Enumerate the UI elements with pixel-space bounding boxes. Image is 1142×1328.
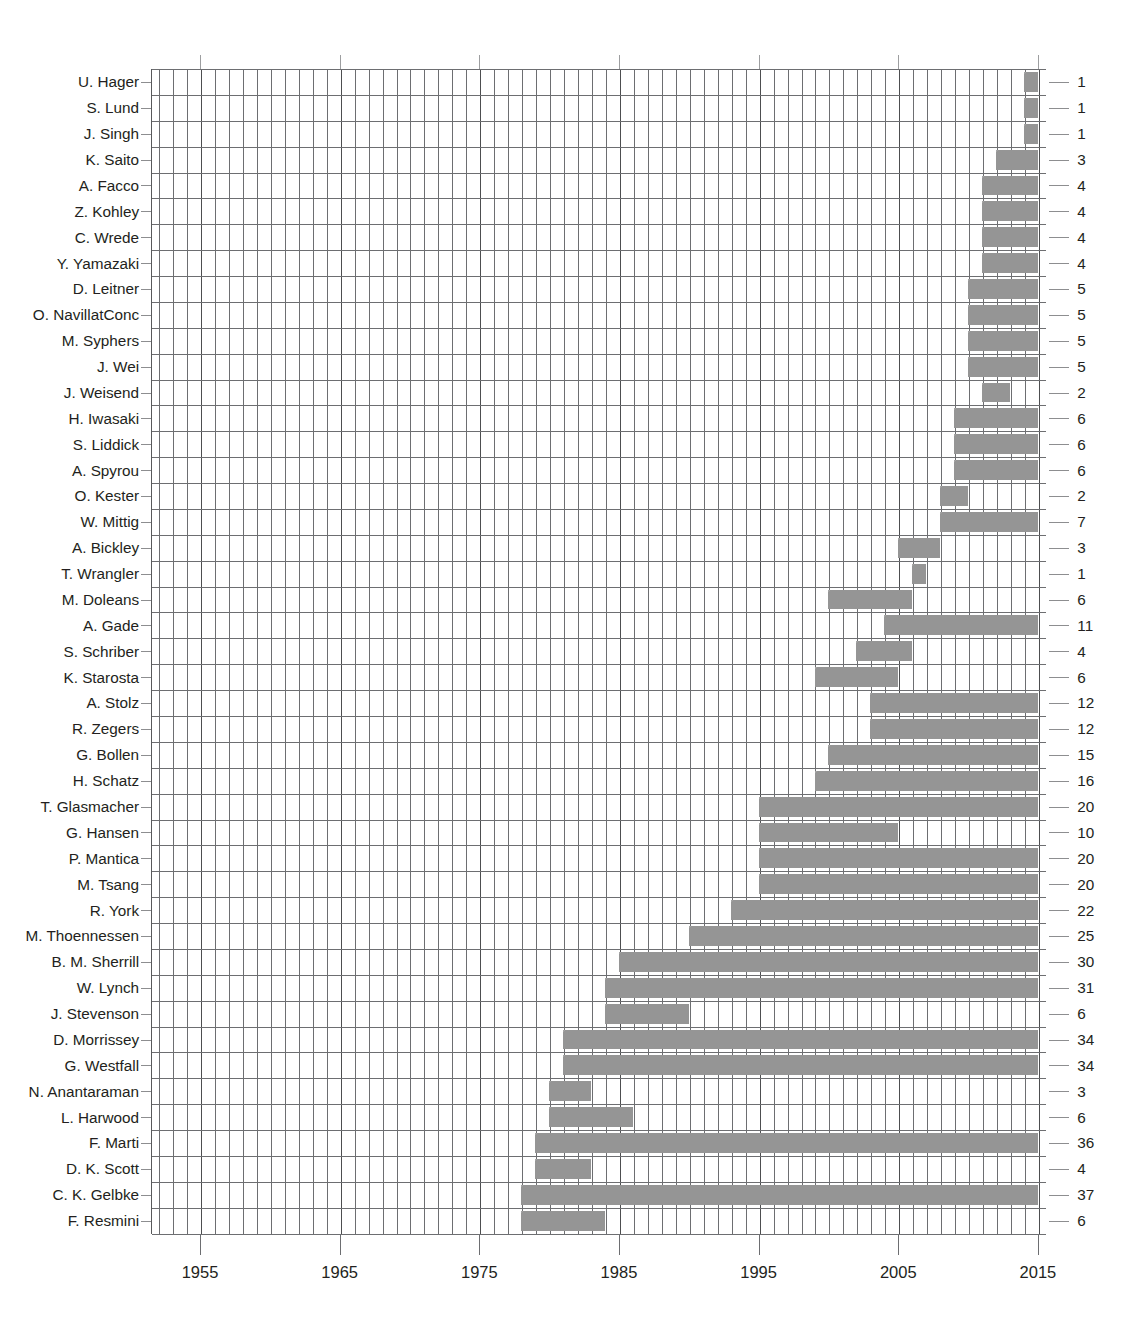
- value-tick: [1049, 884, 1069, 885]
- y-axis-label-a-spyrou: A. Spyrou: [72, 463, 139, 478]
- y-axis-tick: [141, 729, 151, 730]
- bar-t-wrangler[interactable]: [912, 564, 926, 584]
- y-axis-tick: [141, 496, 151, 497]
- gridline-horizontal: [152, 820, 1046, 821]
- value-label-c-wrede: 4: [1077, 230, 1086, 245]
- gridline-vertical-1973: [452, 69, 453, 1234]
- y-axis-tick: [141, 108, 151, 109]
- chart-page: U. Hager1S. Lund1J. Singh1K. Saito3A. Fa…: [0, 0, 1142, 1328]
- bar-r-zegers[interactable]: [870, 719, 1038, 739]
- bar-k-starosta[interactable]: [815, 667, 899, 687]
- bar-m-doleans[interactable]: [828, 590, 912, 610]
- gridline-horizontal: [152, 1156, 1046, 1157]
- bar-g-hansen[interactable]: [759, 823, 899, 843]
- y-axis-label-t-glasmacher: T. Glasmacher: [41, 799, 140, 814]
- bar-w-lynch[interactable]: [605, 978, 1038, 998]
- bar-a-bickley[interactable]: [898, 538, 940, 558]
- gridline-horizontal: [152, 742, 1046, 743]
- bar-f-resmini[interactable]: [521, 1211, 605, 1231]
- bar-g-westfall[interactable]: [563, 1055, 1038, 1075]
- value-tick: [1049, 1117, 1069, 1118]
- bar-r-york[interactable]: [731, 900, 1038, 920]
- bar-d-leitner[interactable]: [968, 279, 1038, 299]
- bar-s-schriber[interactable]: [856, 641, 912, 661]
- y-axis-tick: [141, 1091, 151, 1092]
- bar-k-saito[interactable]: [996, 150, 1038, 170]
- bar-d-morrissey[interactable]: [563, 1030, 1038, 1050]
- x-axis-tick-label-1965: 1965: [300, 1264, 380, 1281]
- y-axis-label-c-wrede: C. Wrede: [75, 230, 139, 245]
- bar-j-stevenson[interactable]: [605, 1004, 689, 1024]
- value-tick: [1049, 858, 1069, 859]
- y-axis-label-h-schatz: H. Schatz: [73, 773, 139, 788]
- value-label-g-westfall: 34: [1077, 1058, 1094, 1073]
- bar-h-schatz[interactable]: [815, 771, 1038, 791]
- y-axis-tick: [141, 82, 151, 83]
- value-label-d-leitner: 5: [1077, 281, 1086, 296]
- value-tick: [1049, 444, 1069, 445]
- gridline-vertical-2015: [1039, 69, 1040, 1234]
- x-axis-tick-1965: [340, 1234, 341, 1255]
- value-label-p-mantica: 20: [1077, 851, 1094, 866]
- y-axis-tick: [141, 289, 151, 290]
- bar-d-k-scott[interactable]: [535, 1159, 591, 1179]
- bar-a-gade[interactable]: [884, 615, 1038, 635]
- gridline-vertical-1957: [229, 69, 230, 1234]
- bar-p-mantica[interactable]: [759, 848, 1038, 868]
- value-label-y-yamazaki: 4: [1077, 256, 1086, 271]
- bar-t-glasmacher[interactable]: [759, 797, 1038, 817]
- value-label-z-kohley: 4: [1077, 204, 1086, 219]
- y-axis-tick: [141, 1065, 151, 1066]
- bar-c-wrede[interactable]: [982, 227, 1038, 247]
- value-label-k-saito: 3: [1077, 152, 1086, 167]
- gridline-horizontal: [152, 535, 1046, 536]
- bar-a-stolz[interactable]: [870, 693, 1038, 713]
- y-axis-label-g-bollen: G. Bollen: [76, 747, 139, 762]
- bar-o-navillatconc[interactable]: [968, 305, 1038, 325]
- bar-z-kohley[interactable]: [982, 201, 1038, 221]
- bar-f-marti[interactable]: [535, 1133, 1038, 1153]
- bar-s-lund[interactable]: [1024, 98, 1038, 118]
- y-axis-label-b-m-sherrill: B. M. Sherrill: [52, 954, 140, 969]
- bar-j-weisend[interactable]: [982, 383, 1010, 403]
- bar-y-yamazaki[interactable]: [982, 253, 1038, 273]
- bar-m-tsang[interactable]: [759, 874, 1038, 894]
- bar-o-kester[interactable]: [940, 486, 968, 506]
- y-axis-tick: [141, 185, 151, 186]
- y-axis-tick: [141, 962, 151, 963]
- y-axis-label-j-singh: J. Singh: [84, 126, 139, 141]
- bar-j-singh[interactable]: [1024, 124, 1038, 144]
- gridline-vertical-1952: [159, 69, 160, 1234]
- value-tick: [1049, 548, 1069, 549]
- bar-w-mittig[interactable]: [940, 512, 1038, 532]
- bar-a-spyrou[interactable]: [954, 460, 1038, 480]
- bar-n-anantaraman[interactable]: [549, 1081, 591, 1101]
- gridline-horizontal: [152, 483, 1046, 484]
- bar-u-hager[interactable]: [1024, 72, 1038, 92]
- value-label-m-doleans: 6: [1077, 592, 1086, 607]
- gridline-horizontal: [152, 638, 1046, 639]
- bar-m-thoennessen[interactable]: [689, 926, 1038, 946]
- bar-c-k-gelbke[interactable]: [521, 1185, 1038, 1205]
- value-tick: [1049, 962, 1069, 963]
- bar-l-harwood[interactable]: [549, 1107, 633, 1127]
- x-axis-tick-2015: [1038, 1234, 1039, 1255]
- bar-b-m-sherrill[interactable]: [619, 952, 1038, 972]
- value-tick: [1049, 522, 1069, 523]
- bar-m-syphers[interactable]: [968, 331, 1038, 351]
- value-label-j-weisend: 2: [1077, 385, 1086, 400]
- gridline-horizontal: [152, 845, 1046, 846]
- y-axis-label-o-navillatconc: O. NavillatConc: [33, 307, 139, 322]
- gridline-horizontal: [152, 612, 1046, 613]
- bar-s-liddick[interactable]: [954, 434, 1038, 454]
- bar-j-wei[interactable]: [968, 357, 1038, 377]
- gridline-vertical-1978: [522, 69, 523, 1234]
- bar-h-iwasaki[interactable]: [954, 408, 1038, 428]
- bar-g-bollen[interactable]: [828, 745, 1037, 765]
- value-label-w-mittig: 7: [1077, 514, 1086, 529]
- gridline-horizontal: [152, 1104, 1046, 1105]
- y-axis-label-a-facco: A. Facco: [79, 178, 139, 193]
- gridline-horizontal: [152, 1208, 1046, 1209]
- value-tick: [1049, 574, 1069, 575]
- bar-a-facco[interactable]: [982, 176, 1038, 196]
